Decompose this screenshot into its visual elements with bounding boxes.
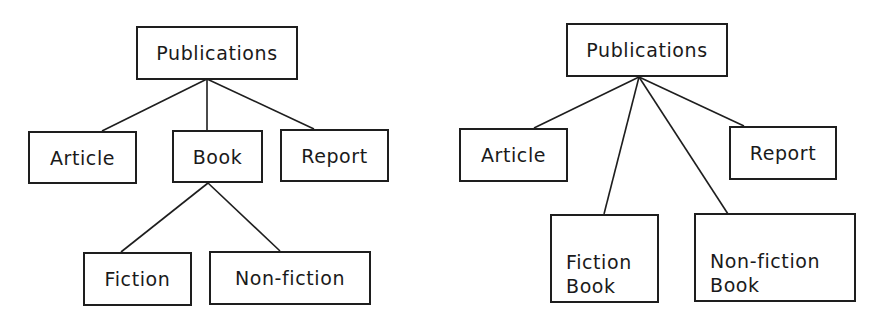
node-article: Article: [459, 128, 568, 182]
node-label: Article: [481, 143, 546, 167]
node-article: Article: [28, 131, 137, 184]
edge-publications-article: [102, 79, 207, 131]
node-report: Report: [729, 126, 837, 180]
edge-publications-article: [534, 77, 639, 128]
node-label: Publications: [156, 41, 277, 65]
node-fiction: Fiction: [83, 252, 192, 306]
node-book: Book: [172, 130, 263, 183]
node-publications: Publications: [136, 26, 298, 80]
node-label: Publications: [586, 38, 707, 62]
node-publications: Publications: [566, 23, 728, 77]
edge-book-fiction: [121, 183, 208, 252]
edge-publications-fiction-book: [604, 77, 639, 214]
node-label: Fiction Book: [566, 250, 657, 298]
node-nonfiction: Non-fiction: [209, 251, 371, 305]
node-label: Non-fiction: [235, 266, 345, 290]
edge-publications-report: [207, 79, 314, 129]
node-nonfiction-book: Non-fiction Book: [694, 213, 856, 302]
node-label: Non-fiction Book: [710, 249, 854, 297]
diagram-canvas: Publications Article Book Report Fiction…: [0, 0, 882, 325]
node-fiction-book: Fiction Book: [550, 214, 659, 303]
node-label: Report: [750, 141, 817, 165]
node-report: Report: [280, 129, 389, 182]
edge-book-nonfiction: [208, 183, 280, 251]
node-label: Book: [193, 145, 243, 169]
node-label: Fiction: [105, 267, 171, 291]
node-label: Report: [301, 144, 368, 168]
node-label: Article: [50, 146, 115, 170]
